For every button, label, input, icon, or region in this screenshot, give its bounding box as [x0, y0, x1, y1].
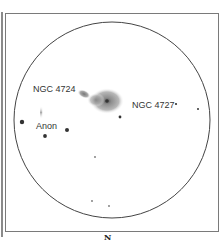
star: [65, 128, 69, 132]
label-ngc4727: NGC 4727: [132, 100, 175, 110]
star: [175, 103, 177, 105]
label-anon: Anon: [36, 121, 57, 131]
star: [94, 156, 96, 158]
eyepiece-field: [0, 0, 224, 241]
star: [119, 116, 122, 119]
star: [91, 200, 93, 202]
star: [197, 108, 199, 110]
star: [20, 120, 24, 124]
label-ngc4724: NGC 4724: [33, 84, 76, 94]
north-indicator: N: [104, 233, 111, 241]
stars: [20, 103, 199, 207]
star: [108, 205, 110, 207]
anon-object: [40, 106, 42, 119]
field-circle: [14, 22, 210, 218]
star: [43, 134, 47, 138]
galaxy-ngc4727: [87, 88, 124, 114]
